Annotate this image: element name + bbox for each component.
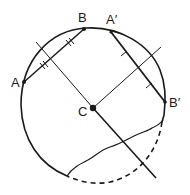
point-a-prime xyxy=(109,30,112,33)
point-b xyxy=(82,27,86,31)
circle-centre-construction-diagram: A B A′ B′ C xyxy=(0,0,190,195)
label-b-prime: B′ xyxy=(169,95,181,110)
label-b: B xyxy=(78,10,87,25)
point-a xyxy=(22,80,26,84)
chord-ab xyxy=(24,29,84,82)
point-c-centre xyxy=(90,105,96,111)
label-a-prime: A′ xyxy=(106,12,118,27)
perpendicular-bisector-a-prime-b-prime xyxy=(93,47,161,108)
label-c: C xyxy=(78,104,87,119)
perpendicular-bisector-ab-extension xyxy=(93,108,156,178)
label-a: A xyxy=(11,75,20,90)
wavy-break-line xyxy=(67,120,163,176)
point-b-prime xyxy=(163,100,167,104)
perpendicular-bisector-ab xyxy=(36,42,93,108)
